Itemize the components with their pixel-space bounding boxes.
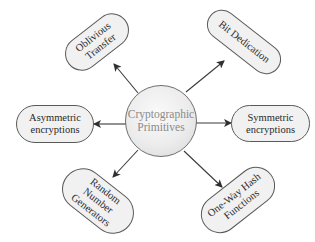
center-node-cryptographic-primitives: Cryptographic Primitives: [125, 85, 197, 157]
cryptographic-primitives-diagram: Cryptographic Primitives Oblivious Trans…: [0, 0, 315, 242]
arrow-to-bit-dedication: [186, 61, 224, 92]
center-label-line2: Primitives: [137, 121, 184, 134]
node-label-line1: Symmetric: [247, 112, 293, 124]
node-label-line2: encryptions: [246, 124, 295, 136]
node-symmetric-encryptions: Symmetric encryptions: [231, 105, 310, 142]
arrow-to-oblivious-transfer: [114, 64, 138, 93]
center-label-line1: Cryptographic: [128, 108, 194, 121]
arrow-to-random-number-generators: [113, 150, 138, 177]
node-label-line2: encryptions: [31, 124, 80, 136]
node-asymmetric-encryptions: Asymmetric encryptions: [16, 105, 94, 143]
arrow-to-one-way-hash-functions: [184, 151, 222, 187]
node-label-line1: Asymmetric: [29, 112, 81, 124]
